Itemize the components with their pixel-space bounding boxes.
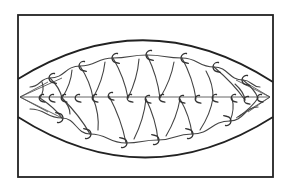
diagonal-strand-low-back	[166, 99, 180, 136]
left-fan-line	[20, 78, 62, 97]
lens-top-arc	[18, 40, 273, 82]
diagonal-strand-low-back	[62, 98, 70, 114]
diagonal-strand-low	[146, 99, 158, 140]
diagonal-strand-down	[182, 58, 196, 99]
diagonal-strand-back	[206, 71, 213, 98]
hook-crossing	[49, 94, 55, 102]
diagonal-strand-back	[128, 59, 139, 98]
left-fan-line	[20, 97, 62, 118]
diagram-svg	[0, 0, 287, 188]
diagonal-strand-low	[109, 96, 126, 143]
diagonal-strand-back	[160, 62, 174, 98]
lens-bottom-arc	[18, 117, 273, 158]
diagonal-strand-low-back	[134, 99, 146, 139]
upper-strand	[30, 55, 260, 87]
diagonal-strand-back	[62, 70, 72, 98]
diagonal-strand-down	[113, 58, 128, 98]
hook-crossing	[75, 94, 81, 102]
diagonal-strand-down	[147, 55, 160, 98]
knot-diagram	[0, 0, 287, 188]
diagonal-strand-low-back	[93, 98, 98, 130]
diagonal-strand-low-back	[200, 98, 213, 130]
outer-frame	[18, 15, 273, 177]
diagonal-strand-back	[93, 62, 105, 98]
